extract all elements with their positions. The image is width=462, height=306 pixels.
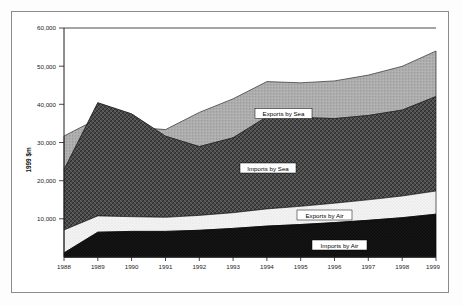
- x-tick-label-1995: 1995: [294, 263, 308, 270]
- x-tick-label-1999: 1999: [426, 263, 440, 270]
- series-label-exports-air: Exports by Air: [297, 210, 352, 220]
- stacked-area-chart: 60,000 50,000 40,000 30,000 20,000 10,00…: [12, 12, 450, 294]
- x-tick-label-1996: 1996: [328, 263, 342, 270]
- x-tick-label-1990: 1990: [125, 263, 139, 270]
- series-label-text: Imports by Air: [321, 242, 359, 249]
- y-tick-label-10000: 10,000: [37, 215, 56, 222]
- x-tick-label-1994: 1994: [260, 263, 274, 270]
- y-tick-label-40000: 40,000: [37, 101, 56, 108]
- x-tick-label-1988: 1988: [57, 263, 71, 270]
- series-label-text: Imports by Sea: [247, 165, 289, 172]
- figure-frame: 60,000 50,000 40,000 30,000 20,000 10,00…: [11, 11, 449, 293]
- x-tick-label-1998: 1998: [395, 263, 409, 270]
- chart-svg: 60,000 50,000 40,000 30,000 20,000 10,00…: [12, 12, 450, 294]
- y-ticks: 60,000 50,000 40,000 30,000 20,000 10,00…: [37, 24, 64, 222]
- x-tick-label-1989: 1989: [91, 263, 105, 270]
- x-tick-label-1992: 1992: [192, 263, 206, 270]
- x-tick-label-1993: 1993: [226, 263, 240, 270]
- y-tick-label-50000: 50,000: [37, 63, 56, 70]
- y-axis-title: 1999 $m: [25, 147, 33, 173]
- x-tick-label-1991: 1991: [159, 263, 173, 270]
- x-ticks: 1988 1989 1990 1991 1992 1993 1994 1995 …: [57, 257, 440, 270]
- series-label-imports-air: Imports by Air: [312, 240, 367, 250]
- series-label-text: Exports by Air: [305, 212, 343, 219]
- screenshot-root: 60,000 50,000 40,000 30,000 20,000 10,00…: [0, 0, 462, 306]
- series-label-text: Exports by Sea: [263, 110, 306, 117]
- y-tick-label-30000: 30,000: [37, 139, 56, 146]
- x-tick-label-1997: 1997: [361, 263, 375, 270]
- series-label-imports-sea: Imports by Sea: [240, 163, 296, 173]
- y-tick-label-60000: 60,000: [37, 24, 56, 31]
- y-tick-label-20000: 20,000: [37, 177, 56, 184]
- series-label-exports-sea: Exports by Sea: [255, 109, 312, 119]
